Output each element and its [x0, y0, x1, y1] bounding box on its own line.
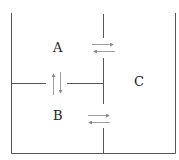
exchange-arrows-a-c — [92, 45, 115, 52]
compartment-diagram — [0, 0, 179, 160]
inner-walls — [12, 14, 104, 153]
compartment-label-a: A — [53, 40, 62, 55]
exchange-arrows-b-c — [88, 116, 110, 123]
compartment-label-b: B — [53, 108, 63, 123]
compartment-label-c: C — [134, 74, 144, 89]
exchange-arrows-a-b — [54, 72, 61, 95]
